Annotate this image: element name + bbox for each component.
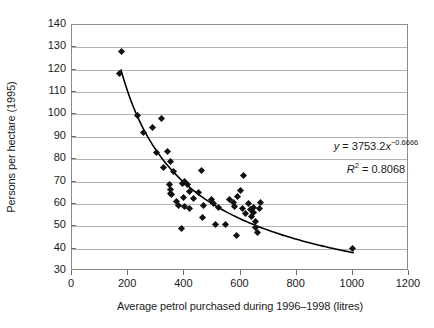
plot-area: y = 3753.2x−0.6666 R2 = 0.8068 — [71, 24, 408, 270]
r-squared-line: R2 = 0.8068 — [300, 156, 434, 179]
r-squared-symbol: R — [347, 162, 355, 174]
y-tick-mark — [71, 248, 76, 249]
y-tick-label: 100 — [32, 107, 66, 118]
data-point — [180, 194, 187, 201]
y-tick-label: 80 — [32, 152, 66, 163]
data-point — [254, 229, 261, 236]
data-point — [200, 201, 207, 208]
y-tick-label: 90 — [32, 130, 66, 141]
equation-coefficient: = 3753.2 — [339, 140, 385, 152]
x-tick-label: 1200 — [385, 278, 431, 289]
x-tick-label: 1000 — [329, 278, 375, 289]
data-point — [118, 48, 125, 55]
data-point — [164, 148, 171, 155]
data-point — [186, 205, 193, 212]
y-tick-mark — [71, 69, 76, 70]
x-tick-label: 200 — [104, 278, 150, 289]
y-tick-label: 50 — [32, 219, 66, 230]
y-tick-mark — [71, 181, 76, 182]
data-point — [140, 129, 147, 136]
x-tick-label: 800 — [273, 278, 319, 289]
data-point — [153, 149, 160, 156]
data-point — [186, 188, 193, 195]
data-point — [149, 124, 156, 131]
x-tick-label: 400 — [160, 278, 206, 289]
data-point — [240, 172, 247, 179]
x-axis-label: Average petrol purchased during 1996–199… — [71, 300, 409, 312]
y-tick-mark — [71, 203, 76, 204]
data-point — [222, 220, 229, 227]
data-point — [134, 112, 141, 119]
y-tick-mark — [71, 46, 76, 47]
data-point — [231, 203, 238, 210]
data-point — [233, 232, 240, 239]
x-tick-label: 0 — [48, 278, 94, 289]
equation-exponent: −0.6666 — [391, 138, 418, 147]
y-tick-label: 140 — [32, 18, 66, 29]
x-axis-tick-labels: 020040060080010001200 — [71, 278, 408, 292]
data-point — [198, 214, 205, 221]
equation-line: y = 3753.2x−0.6666 — [300, 133, 434, 156]
x-tick-mark — [408, 270, 409, 275]
x-tick-mark — [183, 270, 184, 275]
y-tick-label: 30 — [32, 264, 66, 275]
y-tick-mark — [71, 91, 76, 92]
data-point — [178, 225, 185, 232]
data-point — [190, 195, 197, 202]
y-tick-mark — [71, 158, 76, 159]
data-point — [167, 158, 174, 165]
data-point — [158, 115, 165, 122]
y-tick-label: 130 — [32, 40, 66, 51]
x-tick-mark — [127, 270, 128, 275]
y-tick-label: 70 — [32, 175, 66, 186]
y-tick-label: 110 — [32, 85, 66, 96]
data-point — [198, 167, 205, 174]
y-axis-tick-labels: 30405060708090100110120130140 — [28, 24, 66, 270]
y-axis-label: Persons per hectare (1995) — [2, 24, 20, 270]
y-tick-label: 60 — [32, 197, 66, 208]
x-tick-mark — [240, 270, 241, 275]
data-point — [184, 181, 191, 188]
x-tick-mark — [71, 270, 72, 275]
x-tick-label: 600 — [217, 278, 263, 289]
data-point — [215, 204, 222, 211]
data-point — [195, 189, 202, 196]
y-tick-label: 120 — [32, 63, 66, 74]
data-point — [212, 220, 219, 227]
data-point — [170, 168, 177, 175]
data-point — [116, 70, 123, 77]
y-tick-label: 40 — [32, 242, 66, 253]
data-point — [349, 245, 356, 252]
x-tick-mark — [352, 270, 353, 275]
data-point — [160, 163, 167, 170]
r-squared-value: = 0.8068 — [359, 162, 405, 174]
chart-figure: Persons per hectare (1995) 3040506070809… — [0, 0, 434, 328]
x-tick-mark — [296, 270, 297, 275]
y-tick-mark — [71, 113, 76, 114]
y-tick-mark — [71, 225, 76, 226]
regression-annotation: y = 3753.2x−0.6666 R2 = 0.8068 — [300, 133, 434, 178]
y-tick-mark — [71, 136, 76, 137]
